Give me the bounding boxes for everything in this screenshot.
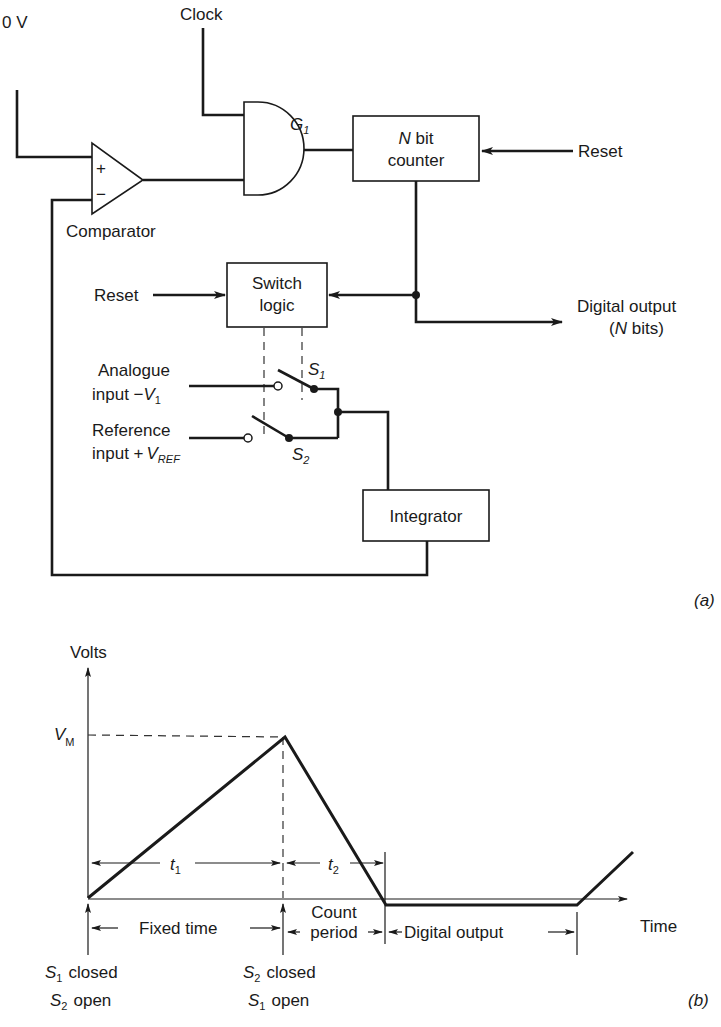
analogue-input-label-line1: Analogue <box>98 361 170 380</box>
t2-label: t2 <box>328 855 339 876</box>
comparator-minus-sign: − <box>96 185 106 204</box>
digital-output-label-line1: Digital output <box>577 297 677 316</box>
s2-label: S2 <box>292 445 309 466</box>
fixed-time-label: Fixed time <box>139 919 217 938</box>
reference-input-label-line2: input +VREF <box>92 444 181 465</box>
switch-logic-reset-label: Reset <box>94 286 139 305</box>
event1-line2: S2open <box>50 991 111 1012</box>
integrator-waveform <box>88 737 633 905</box>
switch-logic-label-line1: Switch <box>252 274 302 293</box>
event2-line2: S1open <box>248 991 309 1012</box>
analogue-input-label-line2: input −V1 <box>92 385 161 406</box>
counter-reset-label: Reset <box>578 142 623 161</box>
panel-label-a: (a) <box>694 591 715 610</box>
digital-output-interval-label: Digital output <box>404 923 504 942</box>
vm-dashed-line <box>88 735 284 737</box>
count-period-label-line1: Count <box>311 903 357 922</box>
reference-input-label-line1: Reference <box>92 421 170 440</box>
switch-logic-box <box>227 263 327 327</box>
switch-logic-label-line2: logic <box>260 296 295 315</box>
counter-box <box>353 116 479 181</box>
s2-open-contact <box>244 434 252 442</box>
x-axis-label: Time <box>640 917 677 936</box>
zero-volt-wire <box>17 90 92 157</box>
clock-label: Clock <box>180 5 223 24</box>
digital-output-label-line2: (N bits) <box>609 319 664 338</box>
s1-label: S1 <box>308 360 325 381</box>
gate-label: G1 <box>290 115 309 136</box>
and-gate-g1: G1 <box>244 102 309 195</box>
s2-switch-blade <box>252 416 289 438</box>
t1-label: t1 <box>170 855 181 876</box>
vm-label: VM <box>54 725 75 748</box>
counter-label-line1: N bit <box>399 129 434 148</box>
figure-a-block-diagram: 0 V + − Comparator Clock G1 N bit <box>2 5 715 610</box>
integrator-label: Integrator <box>390 507 463 526</box>
digital-output-wire <box>416 181 562 322</box>
integrator: Integrator <box>363 490 489 541</box>
counter-label-line2: counter <box>388 151 445 170</box>
y-axis-label: Volts <box>70 643 107 662</box>
comparator-label: Comparator <box>66 222 156 241</box>
event2-line1: S2closed <box>243 963 316 984</box>
event1-line1: S1closed <box>45 963 118 984</box>
n-bit-counter: N bit counter <box>353 116 479 181</box>
adc-diagram: 0 V + − Comparator Clock G1 N bit <box>0 0 721 1027</box>
clock-wire <box>203 28 244 115</box>
zero-volt-label: 0 V <box>2 13 28 32</box>
switch-logic: Switch logic <box>227 263 327 327</box>
comparator-plus-sign: + <box>96 159 106 178</box>
figure-b-waveform-chart: Volts Time VM t1 t2 Fixed time Cou <box>45 643 709 1012</box>
s1-open-contact <box>274 382 282 390</box>
count-period-label-line2: period <box>310 923 357 942</box>
switch-to-integrator-wire <box>338 412 388 490</box>
panel-label-b: (b) <box>688 991 709 1010</box>
